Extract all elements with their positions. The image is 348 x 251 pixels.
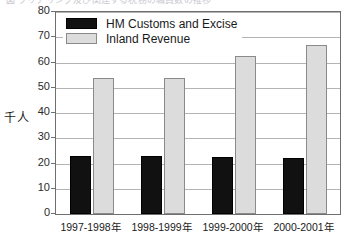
y-axis-tick-label: 80: [26, 4, 50, 16]
x-axis-tick-label: 1997-1998年: [60, 219, 120, 234]
bar: [235, 56, 256, 214]
y-axis-tick-label: 0: [26, 206, 50, 218]
legend-swatch-revenue-icon: [66, 33, 97, 44]
bar: [93, 78, 114, 214]
x-axis-tick-label: 2000-2001年: [273, 219, 333, 234]
y-axis-tick-label: 70: [26, 29, 50, 41]
bar: [164, 78, 185, 214]
bar-chart: 千人 01020304050607080 1997-1998年1998-1999…: [0, 0, 348, 251]
bar: [141, 156, 162, 214]
chart-legend: HM Customs and Excise Inland Revenue: [63, 14, 242, 49]
legend-label-revenue: Inland Revenue: [106, 32, 190, 46]
legend-item-customs: HM Customs and Excise: [66, 16, 237, 31]
x-axis-tick-label: 1999-2000年: [202, 219, 262, 234]
bar: [70, 156, 91, 214]
legend-swatch-customs-icon: [66, 18, 97, 29]
y-axis-tick-label: 50: [26, 80, 50, 92]
legend-label-customs: HM Customs and Excise: [106, 17, 237, 31]
bar: [283, 158, 304, 214]
y-axis-tick-label: 10: [26, 181, 50, 193]
x-axis-tick-label: 1998-1999年: [131, 219, 191, 234]
x-axis: 1997-1998年1998-1999年1999-2000年2000-2001年: [55, 219, 341, 241]
gridline: [56, 12, 340, 13]
y-axis-tick-label: 60: [26, 55, 50, 67]
bar: [306, 45, 327, 214]
bar: [212, 157, 233, 214]
gridline: [56, 63, 340, 64]
y-axis-tick-label: 40: [26, 105, 50, 117]
y-axis-tick-label: 30: [26, 130, 50, 142]
y-axis-tick-label: 20: [26, 156, 50, 168]
legend-item-revenue: Inland Revenue: [66, 31, 237, 46]
